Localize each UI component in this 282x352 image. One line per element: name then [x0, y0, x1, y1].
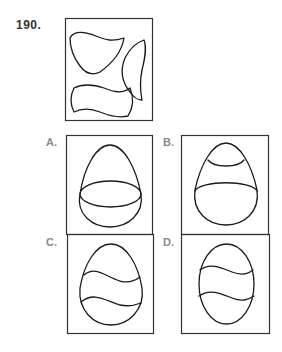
prompt-figure: [66, 19, 153, 121]
option-b-figure[interactable]: [182, 136, 269, 235]
option-d-figure[interactable]: [182, 235, 270, 334]
egg-outline-b: [195, 143, 258, 225]
puzzle-figures: [0, 0, 282, 352]
wave-line-top-d: [200, 266, 253, 274]
piece-cap-shape: [70, 33, 124, 75]
equator-band-b: [195, 183, 257, 191]
option-c-figure[interactable]: [68, 235, 154, 334]
egg-outline-c: [80, 244, 143, 325]
egg-outline-d: [199, 244, 254, 324]
wave-line-top-c: [84, 271, 140, 282]
piece-band-shape: [71, 85, 132, 117]
cap-band-b: [208, 160, 244, 166]
band-ellipse-a: [80, 181, 141, 207]
wave-line-bottom-d: [199, 292, 254, 300]
wave-line-bottom-c: [81, 297, 141, 306]
prompt-frame: [66, 19, 153, 121]
egg-outline-a: [79, 145, 141, 227]
option-a-figure[interactable]: [67, 136, 153, 235]
option-d-frame: [182, 235, 270, 334]
